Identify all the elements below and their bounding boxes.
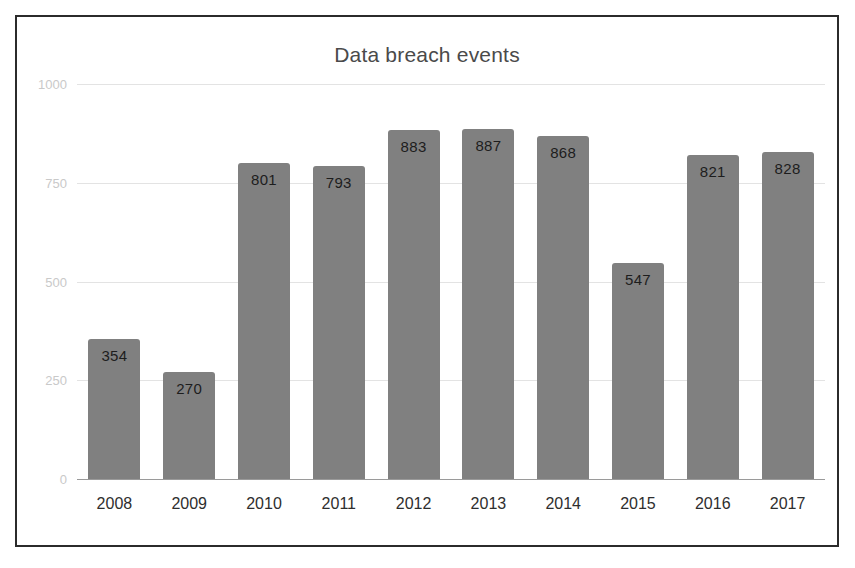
y-axis-tick-label: 500 bbox=[45, 274, 67, 289]
bar-slot: 8012010 bbox=[227, 84, 302, 479]
bar-value-label: 547 bbox=[612, 271, 664, 288]
bar[interactable]: 883 bbox=[388, 130, 440, 479]
bar-value-label: 354 bbox=[88, 347, 140, 364]
bar-slot: 7932011 bbox=[301, 84, 376, 479]
bar-value-label: 868 bbox=[537, 144, 589, 161]
bar-slot: 8682014 bbox=[526, 84, 601, 479]
bar-series: 3542008270200980120107932011883201288720… bbox=[77, 84, 825, 479]
axis-baseline: 0 bbox=[77, 479, 825, 480]
x-axis-tick-label: 2009 bbox=[152, 495, 227, 513]
bar-value-label: 821 bbox=[687, 163, 739, 180]
y-axis-tick-label: 1000 bbox=[38, 77, 67, 92]
x-axis-tick-label: 2010 bbox=[227, 495, 302, 513]
bar[interactable]: 547 bbox=[612, 263, 664, 479]
y-axis-tick-label: 750 bbox=[45, 175, 67, 190]
bar[interactable]: 828 bbox=[762, 152, 814, 479]
bar[interactable]: 793 bbox=[313, 166, 365, 479]
x-axis-tick-label: 2008 bbox=[77, 495, 152, 513]
bar-value-label: 270 bbox=[163, 380, 215, 397]
bar-value-label: 887 bbox=[462, 137, 514, 154]
chart-title: Data breach events bbox=[17, 43, 837, 67]
x-axis-tick-label: 2013 bbox=[451, 495, 526, 513]
bar[interactable]: 270 bbox=[163, 372, 215, 479]
bar-slot: 3542008 bbox=[77, 84, 152, 479]
bar[interactable]: 868 bbox=[537, 136, 589, 479]
y-axis-tick-label: 0 bbox=[60, 472, 67, 487]
bar-slot: 2702009 bbox=[152, 84, 227, 479]
bar[interactable]: 354 bbox=[88, 339, 140, 479]
bar-slot: 8282017 bbox=[750, 84, 825, 479]
chart-frame: Data breach events 10007505002500 354200… bbox=[15, 15, 839, 547]
x-axis-tick-label: 2011 bbox=[301, 495, 376, 513]
bar[interactable]: 821 bbox=[687, 155, 739, 479]
x-axis-tick-label: 2015 bbox=[601, 495, 676, 513]
bar-value-label: 828 bbox=[762, 160, 814, 177]
bar-slot: 8212016 bbox=[675, 84, 750, 479]
bar[interactable]: 887 bbox=[462, 129, 514, 479]
x-axis-tick-label: 2014 bbox=[526, 495, 601, 513]
y-axis-tick-label: 250 bbox=[45, 373, 67, 388]
bar[interactable]: 801 bbox=[238, 163, 290, 479]
bar-slot: 5472015 bbox=[601, 84, 676, 479]
bar-slot: 8872013 bbox=[451, 84, 526, 479]
x-axis-tick-label: 2012 bbox=[376, 495, 451, 513]
plot-area: 10007505002500 3542008270200980120107932… bbox=[77, 84, 825, 479]
x-axis-tick-label: 2017 bbox=[750, 495, 825, 513]
bar-value-label: 793 bbox=[313, 174, 365, 191]
bar-slot: 8832012 bbox=[376, 84, 451, 479]
bar-value-label: 883 bbox=[388, 138, 440, 155]
bar-value-label: 801 bbox=[238, 171, 290, 188]
x-axis-tick-label: 2016 bbox=[675, 495, 750, 513]
